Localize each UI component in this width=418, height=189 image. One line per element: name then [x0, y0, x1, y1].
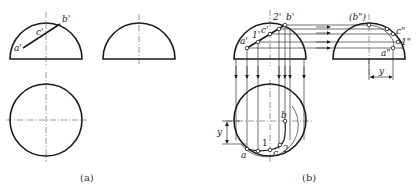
- label-c-dprime: c": [396, 26, 405, 36]
- point-a-dprime: [391, 46, 395, 50]
- three-view-drawing: a' c' b' (a): [0, 0, 418, 189]
- label-b-dprime: (b"): [349, 12, 366, 22]
- point-1-prime: [256, 40, 260, 44]
- point-a-prime: [245, 46, 249, 50]
- label-1: 1: [262, 138, 268, 148]
- point-2-prime: [277, 27, 281, 31]
- label-2: 2: [283, 144, 289, 154]
- label-c: c: [273, 148, 278, 158]
- point-b-dprime: [367, 23, 371, 27]
- side-view-b: (b") c" 1" a" y: [333, 12, 411, 80]
- label-c-prime: c': [261, 25, 269, 35]
- point-1: [256, 149, 260, 153]
- label-b-prime: b': [286, 12, 294, 22]
- dim-label-y-top: y: [216, 127, 223, 137]
- figure-b: a' 1' c' 2' b' (b") c" 1" a" y: [216, 10, 411, 183]
- point-c-dprime: [391, 32, 395, 36]
- label-c-prime: c': [36, 27, 44, 37]
- label-1-dprime: 1": [401, 37, 411, 47]
- point-c: [268, 148, 272, 152]
- top-view-b: a 1 c 2 b y: [216, 80, 312, 162]
- label-a-dprime: a": [381, 48, 391, 58]
- label-b-prime: b': [62, 14, 70, 24]
- label-a: a: [241, 150, 246, 160]
- caption-b: (b): [302, 172, 316, 183]
- label-a-prime: a': [240, 36, 248, 46]
- label-1-prime: 1': [252, 30, 260, 40]
- front-view-b: a' 1' c' 2' b': [234, 10, 403, 151]
- label-b: b: [281, 110, 287, 120]
- point-2-dprime: [385, 27, 389, 31]
- dim-label-y-side: y: [378, 66, 385, 76]
- point-2: [278, 143, 282, 147]
- caption-a: (a): [80, 172, 94, 183]
- label-2-prime: 2': [272, 12, 281, 22]
- side-view-a: [103, 14, 175, 66]
- figure-a: a' c' b' (a): [6, 12, 175, 183]
- horizontal-projectors: [247, 25, 403, 48]
- label-a-prime: a': [14, 43, 22, 53]
- front-view-a: a' c' b': [10, 12, 82, 66]
- point-c-prime: [268, 32, 272, 36]
- point-1-dprime: [396, 40, 400, 44]
- point-b-prime: [283, 23, 287, 27]
- top-view-a: [6, 72, 87, 162]
